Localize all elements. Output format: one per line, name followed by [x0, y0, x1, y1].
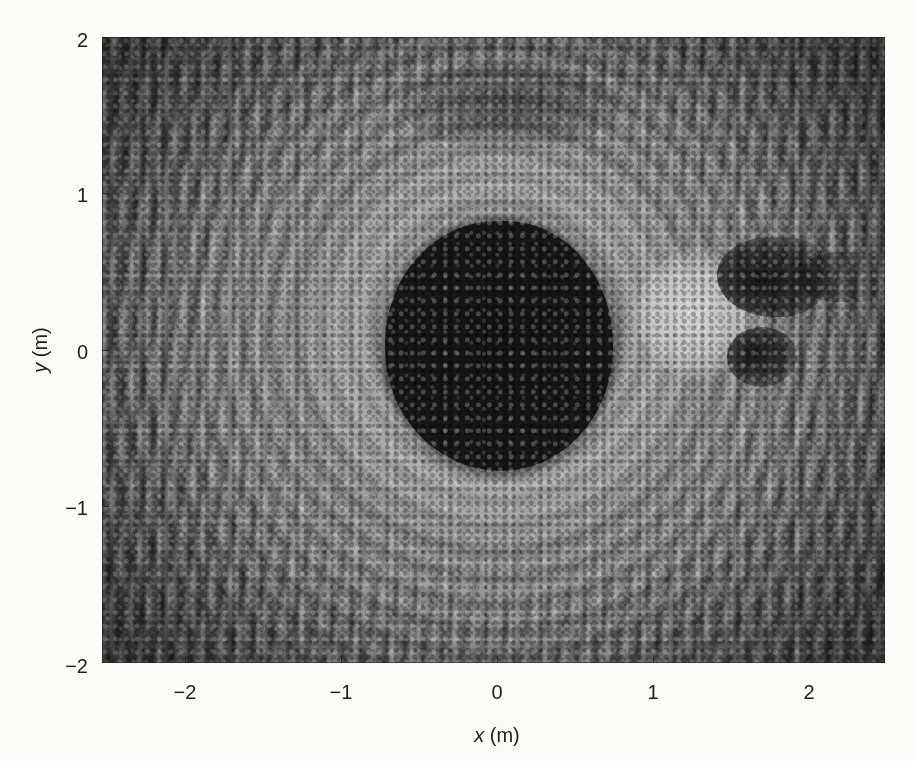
x-tick-mark: [185, 656, 186, 663]
y-tick-label: 0: [77, 342, 88, 362]
x-tick-mark: [653, 656, 654, 663]
y-tick-label: −1: [65, 498, 88, 518]
x-tick-mark: [809, 656, 810, 663]
y-tick-mark: [102, 193, 109, 194]
x-axis-variable: x: [474, 724, 484, 746]
x-tick-mark: [497, 656, 498, 663]
x-tick-label: −2: [174, 682, 197, 702]
y-axis-variable: y: [29, 363, 51, 373]
y-tick-label: −2: [65, 656, 88, 676]
y-tick-mark: [102, 350, 109, 351]
y-axis-unit: (m): [29, 327, 51, 357]
x-tick-label: 2: [803, 682, 814, 702]
x-tick-label: 1: [647, 682, 658, 702]
edge-vignette: [102, 37, 885, 663]
y-tick-label: 2: [77, 30, 88, 50]
x-tick-label: 0: [491, 682, 502, 702]
x-tick-label: −1: [330, 682, 353, 702]
x-axis-title: x (m): [474, 724, 520, 747]
y-tick-label: 1: [77, 185, 88, 205]
figure: −2 −1 0 1 2 2 1 0 −1 −2 x (m) y (m): [0, 0, 914, 761]
heatmap-plot-area: [102, 37, 885, 663]
x-tick-mark: [341, 656, 342, 663]
y-tick-mark: [102, 506, 109, 507]
y-axis-title: y (m): [29, 327, 52, 373]
x-axis-unit: (m): [490, 724, 520, 746]
